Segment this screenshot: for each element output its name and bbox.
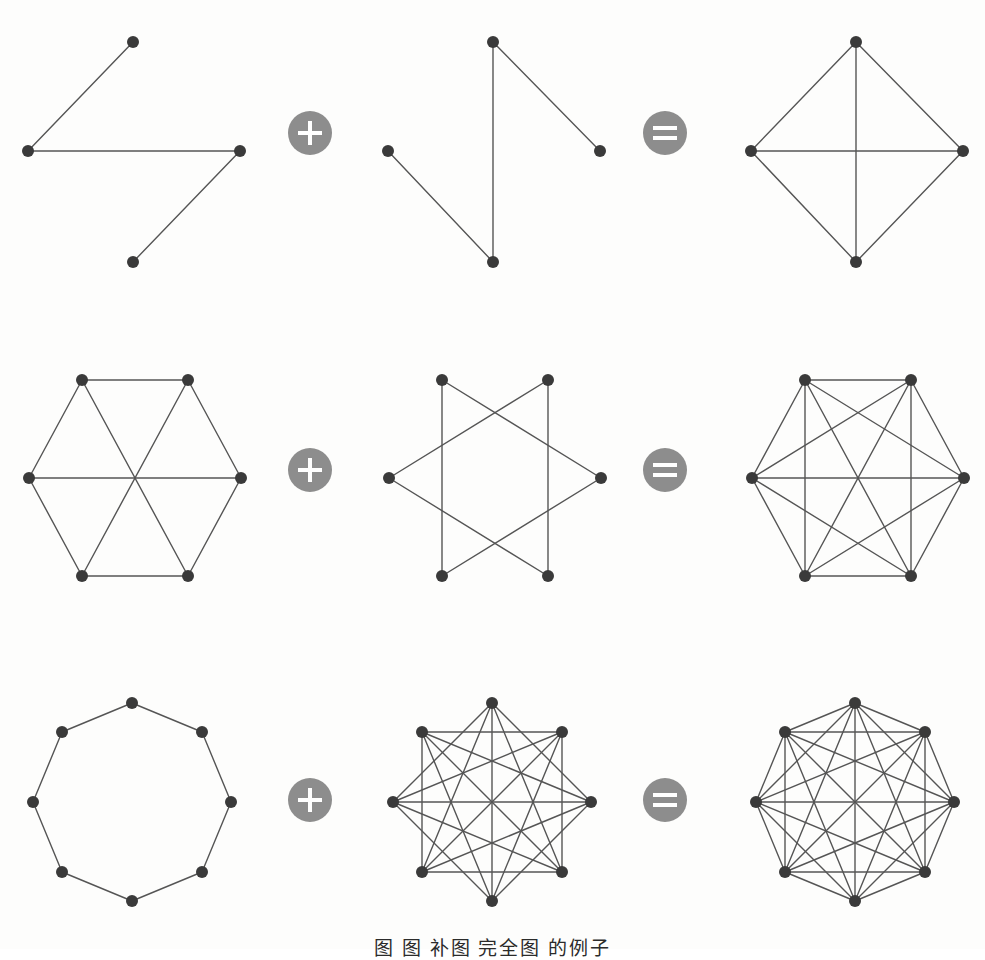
vertex-group bbox=[745, 36, 969, 268]
equals-bar-bottom bbox=[653, 803, 677, 807]
graph-vertex-top-left bbox=[76, 374, 88, 386]
graph-edge bbox=[493, 42, 600, 151]
graph-panel-complete-graph-k4-1 bbox=[723, 10, 972, 271]
equals-bar-bottom bbox=[653, 473, 677, 477]
graph-edge bbox=[752, 380, 911, 478]
graph-edge bbox=[911, 380, 964, 478]
equals-operator bbox=[643, 111, 687, 155]
graph-edge bbox=[33, 802, 62, 872]
graph-vertex-top bbox=[126, 697, 138, 709]
graph-vertex-right bbox=[225, 796, 237, 808]
graph-edge bbox=[62, 872, 132, 901]
edge-group bbox=[389, 380, 601, 576]
vertex-group bbox=[22, 36, 246, 268]
graph-drawing-graph-complement bbox=[370, 680, 600, 910]
graph-edge bbox=[856, 42, 963, 151]
edge-group bbox=[29, 380, 241, 576]
graph-edge bbox=[911, 478, 964, 576]
graph-edge bbox=[33, 732, 62, 802]
graph-vertex-right bbox=[948, 796, 960, 808]
graph-vertex-right bbox=[235, 472, 247, 484]
graph-edge bbox=[188, 380, 241, 478]
edge-group bbox=[388, 42, 600, 262]
graph-vertex-top bbox=[849, 697, 861, 709]
graph-panel-complete-graph-k6-2 bbox=[733, 350, 973, 585]
graph-vertex-bottom-right bbox=[182, 570, 194, 582]
graph-edge bbox=[751, 151, 856, 262]
equals-bar-bottom bbox=[653, 136, 677, 140]
graph-vertex-top bbox=[486, 697, 498, 709]
graph-edge bbox=[751, 42, 856, 151]
graph-vertex-bottom-left bbox=[56, 866, 68, 878]
graph-vertex-top-right bbox=[542, 374, 554, 386]
graph-vertex-top bbox=[850, 36, 862, 48]
graph-vertex-top-right bbox=[919, 726, 931, 738]
graph-vertex-bottom-left bbox=[799, 570, 811, 582]
graph-edge bbox=[752, 380, 805, 478]
equals-operator bbox=[643, 778, 687, 822]
graph-vertex-bottom bbox=[127, 256, 139, 268]
graph-edge bbox=[28, 42, 133, 151]
graph-vertex-top-left bbox=[799, 374, 811, 386]
graph-vertex-bottom-left bbox=[76, 570, 88, 582]
graph-edge bbox=[442, 380, 601, 478]
plus-bar-vertical bbox=[308, 788, 312, 812]
plus-bar-vertical bbox=[308, 121, 312, 145]
graph-drawing-graph-g bbox=[0, 10, 249, 271]
graph-vertex-left bbox=[383, 472, 395, 484]
graph-drawing-complete-graph-k4 bbox=[723, 10, 972, 271]
graph-vertex-bottom-right bbox=[556, 866, 568, 878]
graph-vertex-bottom-right bbox=[196, 866, 208, 878]
graph-vertex-bottom bbox=[487, 256, 499, 268]
graph-drawing-graph-complement bbox=[370, 350, 610, 585]
graph-drawing-graph-g bbox=[10, 680, 240, 910]
graph-edge bbox=[752, 478, 805, 576]
graph-panel-graph-g-1 bbox=[0, 10, 249, 271]
graph-vertex-top-left bbox=[416, 726, 428, 738]
graph-drawing-graph-g bbox=[10, 350, 250, 585]
graph-drawing-complete-graph-k6 bbox=[733, 350, 973, 585]
graph-vertex-bottom-right bbox=[919, 866, 931, 878]
graph-edge bbox=[805, 478, 964, 576]
graph-vertex-bottom bbox=[849, 895, 861, 907]
graph-edge bbox=[133, 151, 240, 262]
graph-vertex-right bbox=[595, 472, 607, 484]
edge-group bbox=[28, 42, 240, 262]
graph-edge bbox=[389, 478, 548, 576]
graph-panel-graph-complement-2 bbox=[370, 350, 610, 585]
graph-vertex-top bbox=[127, 36, 139, 48]
graph-vertex-bottom-left bbox=[436, 570, 448, 582]
vertex-group bbox=[382, 36, 606, 268]
graph-vertex-top-left bbox=[779, 726, 791, 738]
plus-operator bbox=[288, 778, 332, 822]
graph-edge bbox=[442, 478, 601, 576]
equals-bar-top bbox=[653, 126, 677, 130]
graph-panel-graph-complement-3 bbox=[370, 680, 600, 910]
graph-vertex-left bbox=[23, 472, 35, 484]
graph-row-2 bbox=[0, 350, 985, 590]
graph-panel-graph-g-3 bbox=[10, 680, 240, 910]
equals-bar-top bbox=[653, 793, 677, 797]
equals-operator bbox=[643, 448, 687, 492]
graph-vertex-top-right bbox=[556, 726, 568, 738]
graph-edge bbox=[856, 151, 963, 262]
graph-edge bbox=[62, 703, 132, 732]
graph-vertex-bottom-left bbox=[416, 866, 428, 878]
graph-vertex-top-right bbox=[196, 726, 208, 738]
graph-row-3 bbox=[0, 680, 985, 920]
graph-vertex-right bbox=[585, 796, 597, 808]
graph-panel-complete-graph-k8-3 bbox=[733, 680, 963, 910]
graph-edge bbox=[752, 478, 911, 576]
graph-drawing-complete-graph-k8 bbox=[733, 680, 963, 910]
graph-vertex-left bbox=[746, 472, 758, 484]
graph-edge bbox=[188, 478, 241, 576]
graph-vertex-bottom-right bbox=[542, 570, 554, 582]
graph-vertex-right bbox=[958, 472, 970, 484]
graph-row-1 bbox=[0, 10, 985, 280]
graph-edge bbox=[29, 380, 82, 478]
graph-vertex-left bbox=[22, 145, 34, 157]
graph-vertex-left bbox=[382, 145, 394, 157]
graph-vertex-right bbox=[234, 145, 246, 157]
graph-vertex-left bbox=[750, 796, 762, 808]
